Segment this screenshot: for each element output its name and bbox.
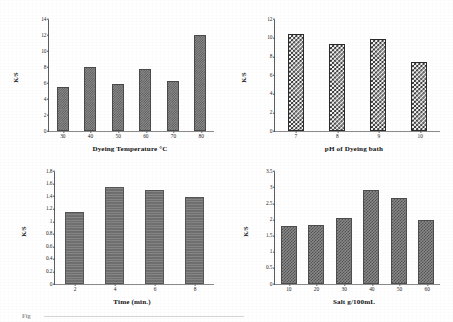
bar: [363, 190, 379, 284]
bar-series: [275, 20, 440, 131]
x-axis-tick-label: 60: [143, 131, 148, 140]
y-axis-tick-label: 4: [44, 96, 49, 101]
x-axis-tick-label: 70: [171, 131, 176, 140]
plot-frame: 024681012 78910: [274, 20, 440, 132]
bar-slot: [385, 172, 413, 284]
y-axis-title: K/S: [240, 63, 247, 93]
x-axis-tick-label: 30: [60, 131, 65, 140]
bar: [57, 87, 69, 131]
y-axis-tick-label: 3.5: [266, 168, 275, 173]
bar-slot: [275, 172, 303, 284]
x-axis-tick-label: 40: [88, 131, 93, 140]
bar: [84, 67, 96, 131]
plot-area-wrapper: K/S 02468101214 304050607080 Dyeing Temp…: [6, 6, 226, 161]
x-axis-tick-label: 2: [74, 284, 77, 293]
y-axis-tick-label: 0.6: [46, 244, 55, 249]
chart-panel-ph-of-dyeing-bath: K/S 024681012 78910 pH of Dyeing bath: [232, 6, 450, 161]
y-axis-tick-label: 0.8: [46, 231, 55, 236]
y-axis-tick-label: 0.2: [46, 269, 55, 274]
plot-frame: 02468101214 304050607080: [48, 20, 214, 132]
bar-series: [55, 172, 214, 284]
x-axis-tick-label: 10: [418, 131, 423, 140]
x-axis-tick-label: 60: [424, 284, 429, 293]
x-axis-tick-label: 50: [397, 284, 402, 293]
y-axis-tick-label: 0.4: [46, 256, 55, 261]
bar-slot: [174, 172, 214, 284]
chart-panel-salt-concentration: K/S 00.511.522.533.5 102030405060 Salt g…: [232, 160, 450, 315]
x-axis-tick-label: 30: [341, 284, 346, 293]
bar-slot: [187, 20, 215, 131]
y-axis-tick-label: 12: [267, 16, 275, 21]
y-axis-tick-label: 0.5: [266, 265, 275, 270]
bar-slot: [399, 20, 440, 131]
y-axis-title: K/S: [20, 217, 27, 247]
bar: [112, 84, 124, 131]
bar-slot: [330, 172, 358, 284]
y-axis-tick-label: 3: [270, 184, 275, 189]
y-axis-tick-label: 1: [270, 249, 275, 254]
bar: [65, 212, 84, 284]
y-axis-tick-label: 0: [50, 281, 55, 286]
y-axis-tick-label: 14: [41, 16, 49, 21]
bar-series: [275, 172, 440, 284]
y-axis-title: K/S: [12, 63, 19, 93]
bar-slot: [316, 20, 357, 131]
plot-area-wrapper: K/S 00.511.522.533.5 102030405060 Salt g…: [232, 160, 450, 315]
bar-slot: [104, 20, 132, 131]
bar: [105, 187, 124, 284]
x-axis-tick-label: 9: [377, 131, 380, 140]
bar: [411, 62, 427, 131]
bar: [391, 198, 407, 284]
y-axis-tick-label: 0: [270, 128, 275, 133]
plot-frame: 00.511.522.533.5 102030405060: [274, 172, 440, 285]
bar-slot: [159, 20, 187, 131]
y-axis-tick-label: 1.6: [46, 181, 55, 186]
bar-slot: [132, 20, 160, 131]
bar: [336, 218, 352, 284]
caption-fragment: Fig: [22, 312, 31, 319]
y-axis-tick-label: 10: [267, 35, 275, 40]
x-axis-tick-label: 6: [154, 284, 157, 293]
y-axis-tick-label: 1.5: [266, 233, 275, 238]
chart-panel-dyeing-temperature: K/S 02468101214 304050607080 Dyeing Temp…: [6, 6, 226, 161]
y-axis-tick-label: 12: [41, 32, 49, 37]
x-axis-tick-label: 10: [286, 284, 291, 293]
caption-rule: [44, 316, 244, 317]
x-axis-tick-label: 20: [314, 284, 319, 293]
y-axis-tick-label: 8: [44, 64, 49, 69]
bar: [329, 44, 345, 131]
bar: [145, 190, 164, 284]
y-axis-tick-label: 2: [44, 112, 49, 117]
bar-slot: [275, 20, 316, 131]
y-axis-tick-label: 0: [270, 281, 275, 286]
x-axis-title: pH of Dyeing bath: [262, 145, 446, 153]
bar-slot: [77, 20, 105, 131]
bar: [167, 81, 179, 131]
x-axis-title: Time (min.): [42, 298, 222, 306]
y-axis-tick-label: 10: [41, 48, 49, 53]
y-axis-tick-label: 4: [270, 91, 275, 96]
plot-area-wrapper: K/S 00.20.40.60.811.21.41.61.8 2468 Time…: [6, 160, 226, 315]
x-axis-tick-label: 7: [294, 131, 297, 140]
x-axis-title: Salt g/100mL: [262, 298, 446, 306]
plot-area-wrapper: K/S 024681012 78910 pH of Dyeing bath: [232, 6, 450, 161]
bar-slot: [303, 172, 331, 284]
x-axis-tick-label: 8: [194, 284, 197, 293]
plot-frame: 00.20.40.60.811.21.41.61.8 2468: [54, 172, 214, 285]
x-axis-tick-label: 50: [115, 131, 120, 140]
y-axis-tick-label: 1.2: [46, 206, 55, 211]
bar: [308, 225, 324, 284]
y-axis-tick-label: 0: [44, 128, 49, 133]
y-axis-tick-label: 8: [270, 54, 275, 59]
bar-slot: [135, 172, 175, 284]
bar: [281, 226, 297, 284]
bar-slot: [55, 172, 95, 284]
bar: [418, 220, 434, 284]
y-axis-tick-label: 1.4: [46, 193, 55, 198]
y-axis-title: K/S: [242, 217, 249, 247]
bar: [185, 197, 204, 284]
bar: [370, 39, 386, 131]
x-axis-title: Dyeing Temperature °C: [36, 145, 224, 153]
y-axis-tick-label: 6: [270, 72, 275, 77]
x-axis-tick-label: 80: [198, 131, 203, 140]
